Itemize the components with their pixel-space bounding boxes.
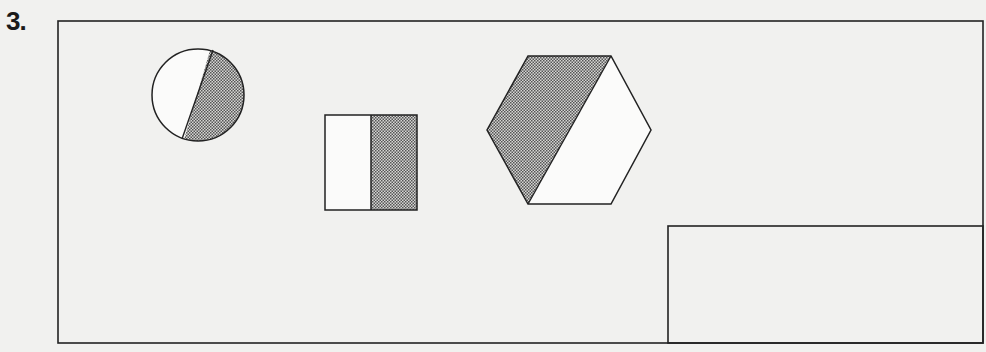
answer-box[interactable] (668, 226, 983, 343)
hexagon-figure (487, 56, 651, 204)
circle-figure (152, 40, 260, 150)
rectangle-figure (325, 115, 417, 210)
worksheet-figure (0, 0, 986, 352)
